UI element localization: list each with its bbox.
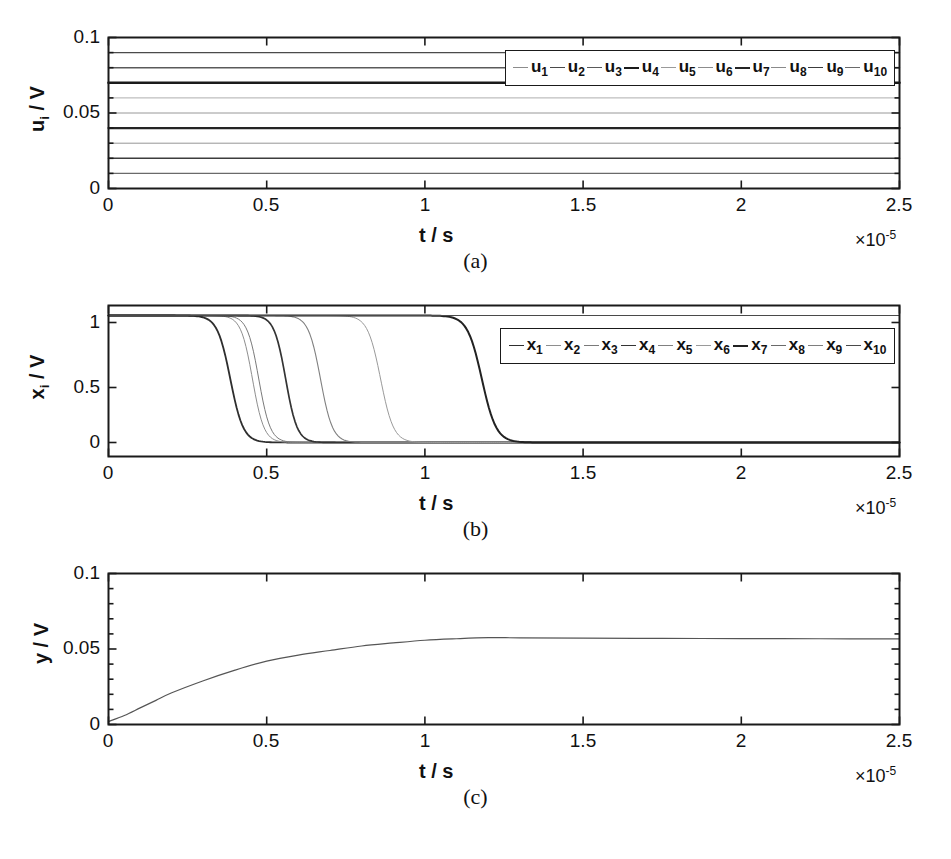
legend-entry-subscript: 2 <box>574 343 581 357</box>
legend-entry-subscript: 6 <box>726 65 733 79</box>
legend-line-swatch <box>808 345 823 346</box>
panel-b-exponent-power: -5 <box>886 496 897 510</box>
panel-a-legend-entry[interactable]: u4 <box>623 57 660 79</box>
panel-c-xtick-4: 2 <box>716 730 766 752</box>
legend-entry-label: x4 <box>639 335 655 357</box>
panel-a-xtick-2: 1 <box>400 194 450 216</box>
panel-b-legend[interactable]: x1x2x3x4x5x6x7x8x9x10 <box>500 328 895 364</box>
legend-line-swatch <box>587 67 602 68</box>
panel-a-legend-entry[interactable]: u1 <box>512 57 549 79</box>
legend-entry-subscript: 7 <box>761 343 768 357</box>
legend-line-swatch <box>696 345 711 346</box>
panel-c-ytick-2: 0.1 <box>40 562 100 584</box>
panel-c-xtick-5: 2.5 <box>874 730 924 752</box>
panel-a-legend[interactable]: u1u2u3u4u5u6u7u8u9u10 <box>505 50 895 86</box>
panel-c-xtick-1: 0.5 <box>241 730 291 752</box>
panel-b-legend-entry[interactable]: x9 <box>807 335 844 357</box>
panel-a-xtick-0: 0 <box>83 194 133 216</box>
legend-entry-label: u5 <box>679 57 696 79</box>
panel-c-exponent-power: -5 <box>886 764 897 778</box>
panel-b-legend-entry[interactable]: x7 <box>732 335 769 357</box>
panel-a: 0.1 0.05 0 0 0.5 1 1.5 2 2.5 t / s ui / … <box>0 0 951 285</box>
panel-b-legend-entry[interactable]: x8 <box>769 335 806 357</box>
legend-entry-label: u10 <box>863 57 887 79</box>
panel-c-ylabel-main: y <box>30 653 52 664</box>
panel-b-legend-entry[interactable]: x5 <box>657 335 694 357</box>
panel-a-legend-entry[interactable]: u3 <box>586 57 623 79</box>
legend-line-swatch <box>546 345 561 346</box>
panel-a-xlabel: t / s <box>419 224 453 247</box>
panel-c-ylabel-unit: / V <box>30 623 52 647</box>
legend-entry-label: u1 <box>531 57 548 79</box>
panel-b-plot <box>0 278 951 533</box>
panel-c-xtick-2: 1 <box>400 730 450 752</box>
panel-b-legend-entry[interactable]: x10 <box>844 335 888 357</box>
legend-entry-label: x6 <box>714 335 730 357</box>
panel-b-exponent-prefix: ×10 <box>855 498 886 518</box>
legend-entry-label: u6 <box>716 57 733 79</box>
panel-c-exponent-prefix: ×10 <box>855 766 886 786</box>
panel-b-legend-entry[interactable]: x4 <box>619 335 656 357</box>
panel-b-legend-entry[interactable]: x1 <box>507 335 544 357</box>
panel-c-xtick-3: 1.5 <box>558 730 608 752</box>
legend-line-swatch <box>658 345 673 346</box>
legend-entry-label: x9 <box>826 335 842 357</box>
panel-a-ylabel-main: u <box>26 120 48 132</box>
legend-entry-subscript: 3 <box>611 343 618 357</box>
panel-a-xtick-1: 0.5 <box>241 194 291 216</box>
panel-a-exponent-power: -5 <box>886 228 897 242</box>
legend-entry-label: u7 <box>753 57 770 79</box>
panel-b-legend-entry[interactable]: x2 <box>544 335 581 357</box>
panel-a-legend-entry[interactable]: u9 <box>808 57 845 79</box>
legend-entry-subscript: 3 <box>615 65 622 79</box>
legend-entry-label: x5 <box>676 335 692 357</box>
legend-entry-label: u2 <box>568 57 585 79</box>
legend-line-swatch <box>550 67 565 68</box>
legend-line-swatch <box>771 345 786 346</box>
panel-a-xlabel-text: t / s <box>419 224 453 246</box>
legend-entry-subscript: 8 <box>800 65 807 79</box>
panel-a-exponent-prefix: ×10 <box>855 230 886 250</box>
panel-a-legend-entry[interactable]: u8 <box>771 57 808 79</box>
panel-c-xlabel-text: t / s <box>419 760 453 782</box>
panel-a-ylabel: ui / V <box>26 54 52 164</box>
panel-b-xtick-0: 0 <box>83 462 133 484</box>
legend-line-swatch <box>584 345 599 346</box>
panel-b-ylabel-unit: / V <box>26 355 48 379</box>
legend-entry-subscript: 10 <box>873 343 886 357</box>
legend-line-swatch <box>624 67 639 69</box>
panel-b: 1 0.5 0 0 0.5 1 1.5 2 2.5 t / s xi / V ×… <box>0 278 951 568</box>
panel-c-xtick-0: 0 <box>83 730 133 752</box>
legend-entry-label: x1 <box>527 335 543 357</box>
panel-b-legend-entry[interactable]: x6 <box>694 335 731 357</box>
legend-entry-label: u8 <box>789 57 806 79</box>
panel-b-ylabel: xi / V <box>26 322 52 432</box>
panel-b-xtick-2: 1 <box>400 462 450 484</box>
panel-c: 0.1 0.05 0 0 0.5 1 1.5 2 2.5 t / s y / V… <box>0 548 951 859</box>
panel-a-legend-entry[interactable]: u7 <box>734 57 771 79</box>
legend-entry-label: x8 <box>789 335 805 357</box>
legend-line-swatch <box>845 67 860 68</box>
legend-entry-subscript: 9 <box>836 343 843 357</box>
panel-b-xtick-3: 1.5 <box>558 462 608 484</box>
panel-a-legend-entry[interactable]: u2 <box>549 57 586 79</box>
panel-b-caption: (b) <box>0 516 951 542</box>
panel-a-xtick-3: 1.5 <box>558 194 608 216</box>
legend-entry-label: x3 <box>602 335 618 357</box>
panel-a-legend-entry[interactable]: u5 <box>660 57 697 79</box>
panel-a-caption: (a) <box>0 248 951 274</box>
panel-a-legend-entry[interactable]: u6 <box>697 57 734 79</box>
legend-entry-subscript: 1 <box>536 343 543 357</box>
data-line <box>109 638 900 722</box>
legend-entry-label: x7 <box>751 335 767 357</box>
panel-a-legend-entry[interactable]: u10 <box>844 57 888 79</box>
panel-c-ticks <box>109 574 900 725</box>
panel-c-ylabel: y / V <box>30 589 53 699</box>
legend-entry-label: u3 <box>605 57 622 79</box>
legend-line-swatch <box>733 345 748 347</box>
panel-b-legend-entry[interactable]: x3 <box>582 335 619 357</box>
legend-line-swatch <box>698 67 713 68</box>
legend-entry-subscript: 6 <box>723 343 730 357</box>
legend-line-swatch <box>513 67 528 68</box>
panel-b-ylabel-sub: i <box>37 385 52 389</box>
